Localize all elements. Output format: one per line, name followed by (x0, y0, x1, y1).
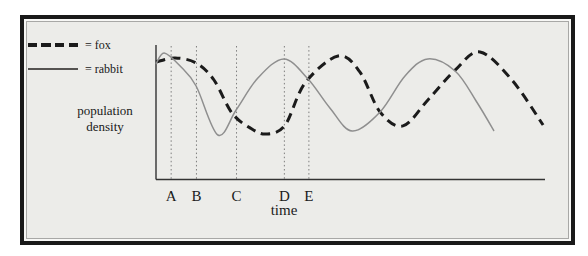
rabbit-solid-line-sample (28, 68, 78, 70)
legend-item-rabbit: = rabbit (28, 57, 123, 81)
rabbit-curve (156, 53, 494, 136)
legend: = fox = rabbit (28, 33, 123, 81)
legend-label-fox: = fox (85, 38, 111, 53)
legend-label-rabbit: = rabbit (85, 62, 123, 77)
time-marker-label-b: B (186, 188, 206, 205)
time-marker-label-a: A (161, 188, 181, 205)
x-axis-label: time (262, 202, 306, 219)
time-marker-label-c: C (227, 188, 247, 205)
figure-page: = fox = rabbit population density A B C … (0, 0, 588, 256)
fox-dashed-line-sample (28, 43, 78, 47)
y-axis-label: population density (65, 103, 145, 136)
fox-curve (156, 52, 543, 134)
legend-item-fox: = fox (28, 33, 123, 57)
